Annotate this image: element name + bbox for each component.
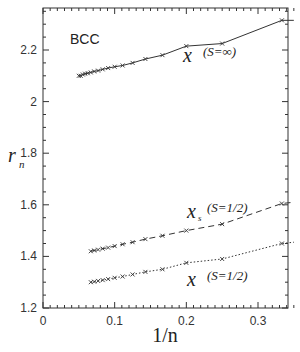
data-point-marker xyxy=(220,257,224,261)
data-point-marker xyxy=(131,272,135,276)
x-tick-label: 0.3 xyxy=(250,314,267,328)
axes: 00.10.20.31.21.41.61.822.21/nrnBCC xyxy=(8,8,294,346)
y-tick-label: 1.2 xyxy=(20,301,37,315)
series-label-0: x xyxy=(182,44,192,66)
y-tick-label: 1.4 xyxy=(20,249,37,263)
x-axis-label: 1/n xyxy=(152,324,178,346)
x-tick-label: 0.1 xyxy=(106,314,123,328)
annotation-bcc: BCC xyxy=(70,31,100,47)
data-point-marker xyxy=(121,275,125,279)
data-point-marker xyxy=(106,246,110,250)
series-label-2: x xyxy=(186,268,196,290)
y-axis-label-sub: n xyxy=(19,158,25,170)
labels-group: x(S=∞)xs(S=1/2)x(S=1/2) xyxy=(182,44,248,290)
y-tick-label: 2 xyxy=(30,95,37,109)
series-label-1: x xyxy=(186,200,196,222)
series-label-paren-2: (S=1/2) xyxy=(207,268,248,283)
chart: 00.10.20.31.21.41.61.822.21/nrnBCC x(S=∞… xyxy=(0,0,300,352)
series-label-paren-0: (S=∞) xyxy=(203,44,236,59)
series-label-paren-1: (S=1/2) xyxy=(207,200,248,215)
y-tick-label: 1.6 xyxy=(20,198,37,212)
plot-frame xyxy=(43,8,288,308)
x-tick-label: 0.2 xyxy=(178,314,195,328)
y-axis-label: r xyxy=(8,144,16,166)
y-tick-label: 2.2 xyxy=(20,43,37,57)
data-point-marker xyxy=(96,248,100,252)
x-tick-label: 0 xyxy=(40,314,47,328)
series-label-sub-1: s xyxy=(198,213,202,223)
data-point-marker xyxy=(96,279,100,283)
data-point-marker xyxy=(184,229,188,233)
